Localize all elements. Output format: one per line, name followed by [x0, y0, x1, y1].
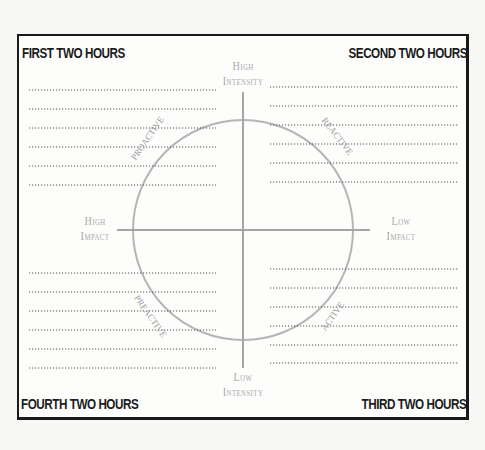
writing-lines-fourth[interactable]	[29, 273, 216, 368]
axis-label-line: Low	[378, 214, 424, 229]
label-reactive: REACTIVE	[320, 116, 356, 158]
label-preactive: PREACTIVE	[132, 293, 169, 340]
axis-label-line: Intensity	[218, 74, 267, 89]
writing-lines-third[interactable]	[270, 269, 459, 363]
writing-lines-first[interactable]	[29, 90, 216, 185]
heading-second-two-hours: SECOND TWO HOURS	[348, 44, 467, 61]
heading-first-two-hours: FIRST TWO HOURS	[22, 44, 125, 61]
label-proactive: PROACTIVE	[129, 114, 166, 162]
axis-label-line: High	[72, 214, 118, 229]
axis-label-low-intensity: Low Intensity	[218, 370, 267, 400]
axis-label-high-impact: High Impact	[72, 214, 118, 244]
axis-label-high-intensity: High Intensity	[218, 59, 267, 89]
axis-label-line: Low	[218, 370, 267, 385]
heading-fourth-two-hours: FOURTH TWO HOURS	[21, 395, 138, 412]
axis-label-line: Impact	[72, 229, 118, 244]
axis-label-line: Intensity	[218, 385, 267, 400]
axis-label-low-impact: Low Impact	[378, 214, 424, 244]
heading-third-two-hours: THIRD TWO HOURS	[361, 395, 466, 412]
axis-label-line: Impact	[378, 229, 424, 244]
axis-label-line: High	[218, 59, 267, 74]
